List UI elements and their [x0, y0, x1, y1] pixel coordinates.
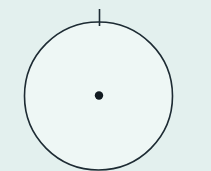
circle-diagram-svg [0, 0, 211, 171]
centre-point-dot [95, 91, 103, 99]
figure-canvas [0, 0, 211, 171]
